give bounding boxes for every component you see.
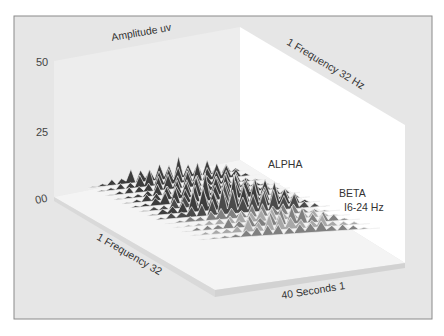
beta-range-label: I6-24 Hz	[344, 201, 384, 213]
tick-25: 25	[36, 126, 48, 138]
tick-00: 00	[34, 192, 48, 206]
beta-band-label: BETA	[339, 187, 366, 199]
tick-50: 50	[36, 56, 48, 68]
alpha-band-label: ALPHA	[268, 158, 302, 170]
eeg-3d-spectrum-chart: Amplitude uv 1 Frequency 32 Hz 1 Frequen…	[0, 0, 444, 336]
